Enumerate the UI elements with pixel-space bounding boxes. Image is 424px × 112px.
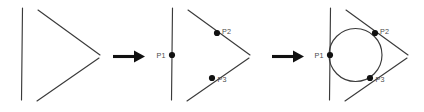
point-p2: [372, 30, 378, 36]
figure-canvas: P1 P2 P3 P1 P2 P3: [0, 0, 424, 112]
point-p2-label: P2: [222, 27, 231, 36]
panel-2: P1 P2 P3: [157, 8, 251, 101]
vertical-line: [22, 8, 23, 100]
point-p3: [209, 75, 215, 81]
upper-diagonal-line: [38, 10, 100, 55]
panel-1: [22, 8, 101, 101]
point-p1: [327, 52, 333, 58]
point-p3-label: P3: [376, 75, 385, 84]
geometry-figure: P1 P2 P3 P1 P2 P3: [0, 0, 424, 112]
point-p2-label: P2: [380, 27, 389, 36]
panel-3: P1 P2 P3: [315, 8, 409, 101]
point-p3-label: P3: [218, 75, 227, 84]
arrow-1-head: [134, 51, 145, 63]
point-p2: [214, 30, 220, 36]
arrow-2-head: [293, 51, 304, 63]
arrow-1: [113, 51, 145, 63]
arrow-2: [272, 51, 304, 63]
point-p3: [367, 75, 373, 81]
lower-diagonal-line: [37, 58, 99, 101]
point-p1: [169, 52, 175, 58]
point-p1-label: P1: [157, 51, 166, 60]
tangent-circle: [329, 29, 382, 82]
point-p1-label: P1: [315, 51, 324, 60]
